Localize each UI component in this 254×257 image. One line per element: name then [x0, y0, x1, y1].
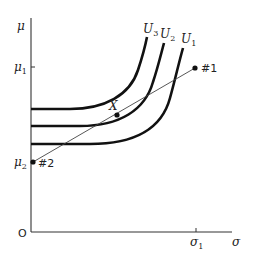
u1-label: U1 [181, 32, 196, 48]
mu2-label: μ2 [14, 155, 27, 171]
opportunity-line [33, 68, 195, 162]
curve-u1 [31, 48, 183, 144]
point-1-label: #1 [201, 62, 217, 75]
u3-label: U3 [143, 22, 158, 38]
x-axis-label: σ [232, 235, 241, 249]
indifference-curve-diagram: μ σ O μ1 μ2 σ1 U3 U2 U1 #1 #2 X [0, 0, 254, 257]
point-2-label: #2 [38, 157, 54, 170]
mu1-label: μ1 [14, 60, 27, 76]
point-x [114, 112, 119, 117]
point-x-label: X [108, 99, 118, 113]
point-2 [30, 159, 35, 164]
curve-u2 [31, 43, 164, 126]
curve-u3 [31, 37, 147, 109]
u2-label: U2 [160, 27, 175, 43]
point-1 [192, 65, 197, 70]
y-axis-label: μ [17, 19, 25, 33]
origin-label: O [18, 227, 27, 240]
sigma1-label: σ1 [190, 235, 203, 251]
